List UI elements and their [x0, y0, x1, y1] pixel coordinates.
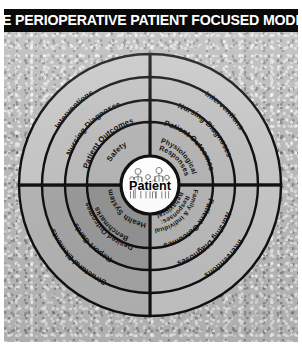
patient-center-label: Patient	[129, 179, 172, 193]
figure-title-bar: THE PERIOPERATIVE PATIENT FOCUSED MODEL1	[4, 9, 298, 32]
figure-page: THE PERIOPERATIVE PATIENT FOCUSED MODEL1	[0, 0, 302, 350]
perioperative-model-diagram: Patient Safety Patient Outcomes Nursing …	[4, 32, 298, 342]
figure-title: THE PERIOPERATIVE PATIENT FOCUSED MODEL	[0, 13, 302, 27]
diagram-panel: Patient Safety Patient Outcomes Nursing …	[4, 32, 298, 342]
